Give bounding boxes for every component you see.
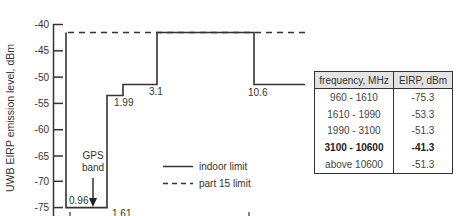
indoor-limit-line xyxy=(66,33,305,208)
tick-label: -40 xyxy=(35,19,50,30)
gps-label-line2: band xyxy=(82,162,104,173)
cell-eirp: -41.3 xyxy=(394,139,453,156)
legend-indoor-limit: indoor limit xyxy=(199,161,248,172)
tick-label: -65 xyxy=(35,151,50,162)
tick-label: -50 xyxy=(35,72,50,83)
tick-label: -60 xyxy=(35,124,50,135)
freq-label-10.6: 10.6 xyxy=(248,87,268,98)
cell-eirp: -51.3 xyxy=(394,156,453,173)
table-row: 1990 - 3100 -51.3 xyxy=(315,123,452,140)
cell-eirp: -53.3 xyxy=(394,106,453,123)
freq-label-1.61: 1.61 xyxy=(112,208,132,216)
cell-eirp: -51.3 xyxy=(394,123,453,140)
header-frequency: frequency, MHz xyxy=(315,72,394,89)
y-ticks xyxy=(53,25,63,208)
y-tick-labels: -40 -45 -50 -55 -60 -65 -70 -75 xyxy=(35,19,50,213)
table-row-highlighted: 3100 - 10600 -41.3 xyxy=(315,139,452,156)
cell-eirp: -75.3 xyxy=(394,89,453,106)
gps-label-line1: GPS xyxy=(82,150,103,161)
cell-frequency: 960 - 1610 xyxy=(315,89,394,106)
table-row: above 10600 -51.3 xyxy=(315,156,452,173)
table-row: 960 - 1610 -75.3 xyxy=(315,89,452,106)
cell-frequency: above 10600 xyxy=(315,156,394,173)
freq-label-3.1: 3.1 xyxy=(149,86,163,97)
freq-label-1.99: 1.99 xyxy=(114,97,134,108)
gps-arrow-icon xyxy=(89,178,97,207)
eirp-table: frequency, MHz EIRP, dBm 960 - 1610 -75.… xyxy=(314,71,453,174)
cell-frequency: 3100 - 10600 xyxy=(315,139,394,156)
header-eirp: EIRP, dBm xyxy=(394,72,453,89)
table-row: 1610 - 1990 -53.3 xyxy=(315,106,452,123)
y-axis-label: UWB EIRP emission level, dBm xyxy=(4,44,16,192)
tick-label: -45 xyxy=(35,45,50,56)
tick-label: -70 xyxy=(35,176,50,187)
freq-label-0.96: 0.96 xyxy=(69,195,89,206)
tick-label: -55 xyxy=(35,98,50,109)
tick-label: -75 xyxy=(35,202,50,213)
legend-part15-limit: part 15 limit xyxy=(199,178,251,189)
legend: indoor limit part 15 limit xyxy=(163,161,251,189)
cell-frequency: 1610 - 1990 xyxy=(315,106,394,123)
cell-frequency: 1990 - 3100 xyxy=(315,123,394,140)
